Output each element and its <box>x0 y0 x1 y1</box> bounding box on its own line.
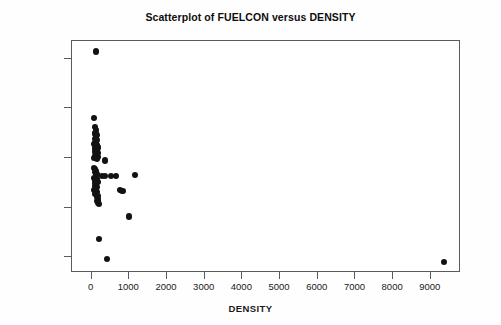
x-axis-tick-label: 9000 <box>407 281 453 292</box>
scatter-point <box>132 172 138 178</box>
x-axis-tick <box>241 272 242 279</box>
scatter-point <box>96 201 102 207</box>
x-axis-tick <box>166 272 167 279</box>
x-axis-tick <box>279 272 280 279</box>
y-axis-tick <box>64 256 71 257</box>
scatter-point <box>119 188 125 194</box>
x-axis-tick <box>392 272 393 279</box>
scatter-point <box>113 173 119 179</box>
scatter-point <box>93 48 99 54</box>
y-axis-tick <box>64 157 71 158</box>
scatter-point <box>94 156 100 162</box>
chart-title: Scatterplot of FUELCON versus DENSITY <box>0 11 501 23</box>
scatter-point <box>104 256 110 262</box>
x-axis-title: DENSITY <box>0 303 501 314</box>
scatter-point <box>96 236 102 242</box>
x-axis-tick <box>204 272 205 279</box>
plot-area <box>71 40 460 272</box>
y-axis-tick <box>64 58 71 59</box>
scatter-point <box>102 157 108 163</box>
scatter-point <box>91 115 97 121</box>
scatter-points-layer <box>72 41 459 271</box>
scatter-point <box>126 213 132 219</box>
y-axis-tick <box>64 207 71 208</box>
x-axis-tick <box>430 272 431 279</box>
x-axis-tick <box>354 272 355 279</box>
x-axis-tick <box>317 272 318 279</box>
scatter-point <box>441 259 447 265</box>
y-axis-tick <box>64 107 71 108</box>
scatterplot-figure: Scatterplot of FUELCON versus DENSITY FU… <box>0 0 501 325</box>
x-axis-tick <box>91 272 92 279</box>
x-axis-tick <box>128 272 129 279</box>
